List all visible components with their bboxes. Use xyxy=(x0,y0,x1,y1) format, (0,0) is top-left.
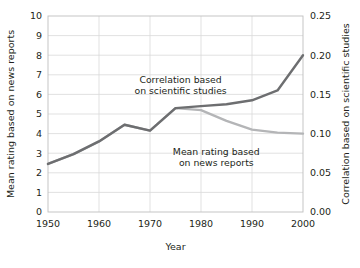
gridlines xyxy=(48,16,303,212)
y-axis-right-ticks: 0.000.050.100.150.200.25 xyxy=(310,10,331,217)
x-axis-tick-label: 2000 xyxy=(291,218,315,229)
y-axis-right-tick-label: 0.15 xyxy=(310,89,331,100)
y-axis-left-tick-label: 4 xyxy=(36,128,42,139)
y-axis-right-title: Correlation based on scientific studies xyxy=(340,23,351,204)
y-axis-left-ticks: 012345678910 xyxy=(30,10,42,217)
y-axis-left-tick-label: 5 xyxy=(36,108,42,119)
annotation-news: Mean rating basedon news reports xyxy=(173,146,260,168)
y-axis-left-tick-label: 6 xyxy=(36,89,42,100)
chart-figure: 012345678910 0.000.050.100.150.200.25 19… xyxy=(0,0,360,268)
x-axis-ticks: 195019601970198019902000 xyxy=(36,218,315,229)
y-axis-left-tick-label: 0 xyxy=(36,206,42,217)
y-axis-left-tick-label: 7 xyxy=(36,69,42,80)
x-axis-tick-label: 1960 xyxy=(87,218,111,229)
y-axis-right-tick-label: 0.10 xyxy=(310,128,331,139)
x-axis-tick-label: 1990 xyxy=(240,218,264,229)
y-axis-left-title: Mean rating based on news reports xyxy=(5,30,16,198)
x-axis-title: Year xyxy=(164,241,185,252)
x-axis-tick-label: 1950 xyxy=(36,218,60,229)
annotations-layer: Correlation basedon scientific studiesMe… xyxy=(134,74,259,169)
y-axis-right-tick-label: 0.20 xyxy=(310,50,331,61)
y-axis-left-tick-label: 3 xyxy=(36,148,42,159)
y-axis-left-tick-label: 9 xyxy=(36,30,42,41)
y-axis-left-tick-label: 8 xyxy=(36,50,42,61)
chart-svg: 012345678910 0.000.050.100.150.200.25 19… xyxy=(0,0,360,268)
annotation-scientific: Correlation basedon scientific studies xyxy=(134,74,226,96)
x-axis-tick-label: 1970 xyxy=(138,218,162,229)
y-axis-left-tick-label: 2 xyxy=(36,167,42,178)
y-axis-right-tick-label: 0.25 xyxy=(310,10,331,21)
y-axis-left-tick-label: 10 xyxy=(30,10,42,21)
y-axis-right-tick-label: 0.00 xyxy=(310,206,331,217)
y-axis-right-tick-label: 0.05 xyxy=(310,167,331,178)
x-axis-tick-label: 1980 xyxy=(189,218,213,229)
y-axis-left-tick-label: 1 xyxy=(36,187,42,198)
